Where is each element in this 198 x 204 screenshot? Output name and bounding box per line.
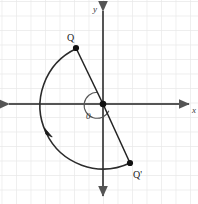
x-axis-label: x (192, 106, 196, 115)
coordinate-plane-figure: y x 0 Q Q' (0, 0, 198, 204)
figure-canvas (0, 0, 198, 204)
grid-lines (0, 0, 198, 204)
origin-point (100, 101, 107, 108)
point-q-prime-label: Q' (133, 170, 142, 180)
point-q-prime (127, 160, 133, 166)
origin-label: 0 (86, 112, 91, 121)
point-q-label: Q (67, 33, 74, 43)
y-axis-label: y (93, 5, 97, 14)
point-q (73, 45, 79, 51)
